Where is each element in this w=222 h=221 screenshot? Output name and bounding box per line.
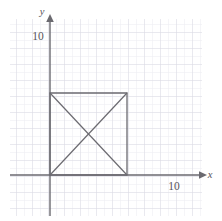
y-axis-name-label: y (39, 6, 45, 17)
coordinate-plane-svg: 10 10 y x (0, 0, 222, 221)
coordinate-plane-figure: 10 10 y x (0, 0, 222, 221)
y-axis-tick-label-10: 10 (32, 30, 44, 42)
x-axis-tick-label-10: 10 (168, 180, 180, 192)
x-axis-name-label: x (207, 169, 213, 180)
